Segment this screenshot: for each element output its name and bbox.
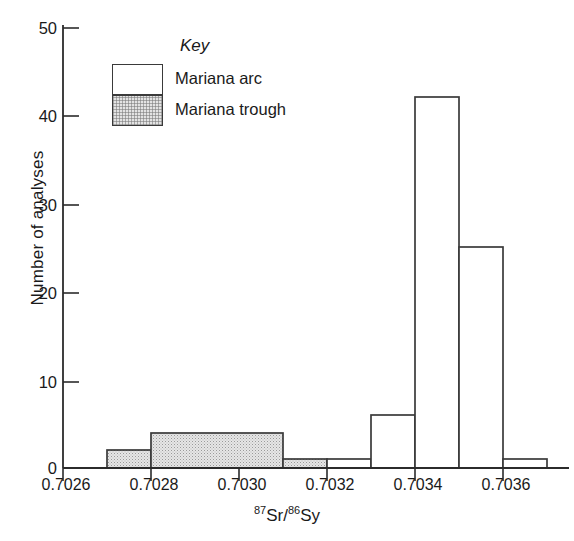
legend-swatch-mariana-arc [112, 64, 163, 95]
series-mariana-arc [327, 97, 547, 468]
x-tick-marks [63, 468, 503, 481]
bar-arc-0.7035 [459, 247, 503, 468]
bar-arc-0.7034 [415, 97, 459, 468]
bar-arc-0.7033 [371, 415, 415, 468]
bar-trough-0.7031 [283, 459, 327, 468]
bar-trough-0.7027 [107, 450, 151, 468]
bar-trough-0.7028-0.7031 [151, 433, 283, 468]
legend-label-mariana-trough: Mariana trough [175, 100, 286, 119]
histogram-figure: Number of analyses 50 40 30 20 10 0 0.70… [0, 0, 574, 541]
legend-swatch-mariana-trough [112, 95, 163, 126]
legend-title: Key [180, 36, 209, 56]
bar-arc-0.7036 [503, 459, 547, 468]
legend: Key Mariana arc Mariana trough [112, 36, 362, 140]
bar-arc-0.7032 [327, 459, 371, 468]
series-mariana-trough [107, 433, 327, 468]
legend-label-mariana-arc: Mariana arc [175, 69, 262, 88]
y-tick-marks [63, 28, 79, 382]
